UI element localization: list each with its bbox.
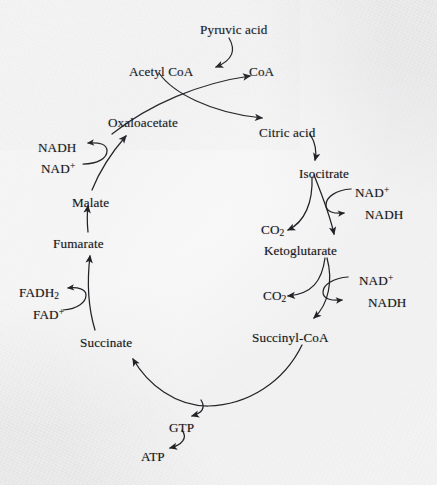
node-co2-upper: CO2: [261, 223, 284, 239]
node-pyruvic-acid: Pyruvic acid: [200, 23, 268, 36]
edge-succinylcoa-to-succinate: [133, 345, 302, 406]
node-gtp: GTP: [169, 421, 194, 434]
edge-fad-to-fadh2: [63, 288, 86, 310]
node-fumarate: Fumarate: [53, 237, 104, 250]
edge-cycle-to-gtp: [192, 400, 203, 416]
node-fad-plus: FAD+: [33, 308, 64, 321]
edge-acetylcoa-to-citrate: [159, 73, 262, 118]
subscript-two: 2: [282, 294, 287, 304]
node-nadh-lower: NADH: [368, 296, 407, 309]
node-malate: Malate: [72, 196, 109, 209]
edge-isocitrate-to-co2-upper: [288, 177, 312, 230]
node-coa: CoA: [249, 65, 274, 78]
node-succinate: Succinate: [80, 336, 132, 349]
edge-isocitrate-to-ketoglutarate: [314, 175, 334, 234]
node-atp: ATP: [141, 450, 165, 463]
diagram-canvas: Pyruvic acid Acetyl CoA CoA Oxaloacetate…: [0, 0, 437, 485]
edge-ketoglutarate-to-co2-lower: [288, 258, 325, 296]
edge-succinate-to-fumarate: [88, 256, 95, 330]
node-nad-plus-upper: NAD+: [355, 186, 389, 199]
edge-pyruvate-to-acetylcoa: [216, 38, 233, 67]
superscript-plus: +: [388, 273, 393, 283]
edge-nad-to-nadh-upper: [326, 189, 351, 213]
node-co2-lower: CO2: [263, 289, 286, 305]
superscript-plus: +: [59, 307, 64, 317]
subscript-two: 2: [280, 228, 285, 238]
superscript-plus: +: [70, 161, 75, 171]
node-nadh-malate: NADH: [38, 141, 77, 154]
node-succinyl-coa: Succinyl-CoA: [252, 331, 329, 344]
edge-malate-to-oxaloacetate: [92, 136, 126, 190]
edge-ketoglutarate-to-succinylcoa: [314, 258, 330, 318]
node-nadh-upper: NADH: [365, 208, 404, 221]
superscript-plus: +: [384, 185, 389, 195]
edge-nad-to-nadh-malate: [83, 143, 107, 164]
node-citric-acid: Citric acid: [259, 126, 315, 139]
node-fadh2: FADH2: [19, 286, 59, 302]
subscript-two: 2: [54, 291, 59, 301]
node-isocitrate: Isocitrate: [299, 167, 349, 180]
node-ketoglutarate: Ketoglutarate: [264, 244, 337, 257]
node-oxaloacetate: Oxaloacetate: [108, 116, 178, 129]
node-acetyl-coa: Acetyl CoA: [129, 65, 193, 78]
node-nad-plus-lower: NAD+: [359, 274, 393, 287]
node-nad-plus-malate: NAD+: [41, 162, 75, 175]
